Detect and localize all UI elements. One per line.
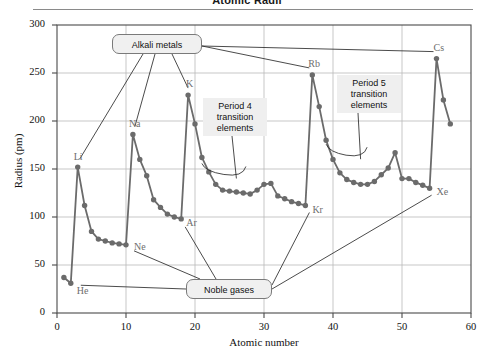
data-point — [248, 191, 253, 196]
data-point — [379, 172, 384, 177]
callout-noble-gases: Noble gases — [186, 279, 272, 299]
atomic-radii-figure: Atomic Radii Radius (pm) Atomic number A… — [0, 0, 494, 358]
data-point — [386, 165, 391, 170]
data-point — [165, 211, 170, 216]
data-point — [137, 157, 142, 162]
data-point — [116, 241, 121, 246]
annotation-leader-line — [202, 46, 309, 68]
annotation-leader-line — [202, 46, 434, 52]
y-axis-tick-label: 300 — [15, 18, 45, 29]
data-point — [441, 97, 446, 102]
x-axis-tick-label: 40 — [318, 321, 348, 332]
data-point — [61, 275, 66, 280]
data-point — [220, 187, 225, 192]
x-axis-tick-label: 10 — [111, 321, 141, 332]
data-point — [82, 203, 87, 208]
data-point — [303, 203, 308, 208]
point-label-he: He — [77, 285, 89, 296]
annotation-leader-period-5 — [358, 113, 361, 159]
annotation-leader-line — [272, 195, 432, 289]
callout-period-5: Period 5 transition elements — [337, 75, 401, 113]
data-point — [317, 104, 322, 109]
callout-period-4-line-1: Period 4 — [218, 101, 252, 111]
data-point — [185, 92, 190, 97]
point-label-k: K — [186, 78, 193, 89]
callout-period-4-line-2: transition — [217, 112, 254, 122]
data-point — [179, 216, 184, 221]
data-point — [406, 176, 411, 181]
data-point — [158, 205, 163, 210]
x-axis-tick-label: 0 — [42, 321, 72, 332]
data-point — [103, 238, 108, 243]
callout-period-5-line-3: elements — [351, 100, 388, 110]
data-point — [289, 199, 294, 204]
data-point — [323, 138, 328, 143]
annotation-leader-period-4 — [232, 136, 236, 178]
annotation-brace-period-5 — [326, 144, 367, 156]
callout-period-4-line-3: elements — [217, 123, 254, 133]
data-point — [110, 240, 115, 245]
data-point — [192, 121, 197, 126]
point-label-ar: Ar — [186, 217, 197, 228]
x-axis-tick-label: 60 — [456, 321, 486, 332]
annotation-leader-line — [135, 54, 155, 126]
data-point — [420, 183, 425, 188]
data-point — [448, 121, 453, 126]
callout-alkali-metals: Alkali metals — [112, 34, 202, 54]
data-point — [261, 182, 266, 187]
data-point — [413, 180, 418, 185]
data-point — [144, 173, 149, 178]
data-point — [268, 181, 273, 186]
data-point — [199, 155, 204, 160]
y-axis-tick-label: 250 — [15, 66, 45, 77]
data-point — [254, 187, 259, 192]
annotation-leader-line — [80, 54, 143, 159]
data-point — [96, 236, 101, 241]
callout-period-5-line-2: transition — [351, 89, 388, 99]
plot-area — [0, 0, 494, 358]
point-label-rb: Rb — [308, 58, 320, 69]
x-axis-tick-label: 30 — [249, 321, 279, 332]
point-label-cs: Cs — [434, 42, 445, 53]
callout-period-4: Period 4 transition elements — [203, 98, 267, 136]
data-point — [241, 190, 246, 195]
data-point — [75, 164, 80, 169]
data-point — [282, 196, 287, 201]
point-label-na: Na — [129, 118, 141, 129]
data-point — [351, 180, 356, 185]
data-point — [344, 177, 349, 182]
data-point — [151, 197, 156, 202]
data-point — [213, 182, 218, 187]
annotation-leader-line — [81, 285, 186, 289]
data-point — [358, 182, 363, 187]
data-point — [234, 189, 239, 194]
y-axis-tick-label: 0 — [15, 306, 45, 317]
data-point — [172, 214, 177, 219]
data-point — [372, 179, 377, 184]
data-point — [130, 132, 135, 137]
x-axis-tick-label: 50 — [387, 321, 417, 332]
data-point — [337, 170, 342, 175]
point-label-ne: Ne — [134, 241, 146, 252]
data-point — [310, 72, 315, 77]
annotation-leader-line — [185, 227, 216, 279]
y-axis-tick-label: 200 — [15, 114, 45, 125]
data-point — [399, 176, 404, 181]
data-point — [434, 56, 439, 61]
point-label-xe: Xe — [437, 186, 449, 197]
data-point — [89, 229, 94, 234]
data-point — [123, 242, 128, 247]
data-point — [68, 281, 73, 286]
data-point — [227, 188, 232, 193]
data-point — [296, 201, 301, 206]
y-axis-tick-label: 100 — [15, 210, 45, 221]
x-axis-tick-label: 20 — [180, 321, 210, 332]
data-point — [330, 157, 335, 162]
data-point — [392, 150, 397, 155]
data-point — [365, 182, 370, 187]
data-point — [427, 186, 432, 191]
callout-period-5-line-1: Period 5 — [352, 78, 386, 88]
data-point — [275, 193, 280, 198]
point-label-kr: Kr — [312, 204, 323, 215]
y-axis-tick-label: 50 — [15, 258, 45, 269]
